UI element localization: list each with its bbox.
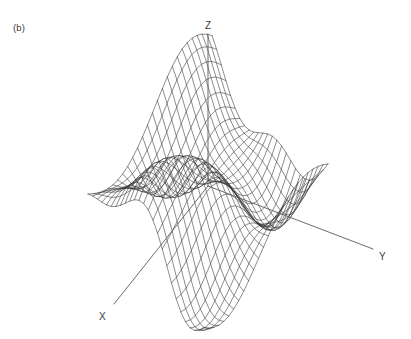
figure-root: (b) Z Y X <box>0 0 411 339</box>
y-axis-line <box>208 186 373 249</box>
axis-label-group: Z Y X <box>99 20 386 322</box>
z-axis-label: Z <box>205 20 211 31</box>
x-axis-label: X <box>99 311 106 322</box>
surface-plot: Z Y X <box>0 0 411 339</box>
y-axis-label: Y <box>379 251 386 262</box>
axis-group <box>114 34 373 304</box>
